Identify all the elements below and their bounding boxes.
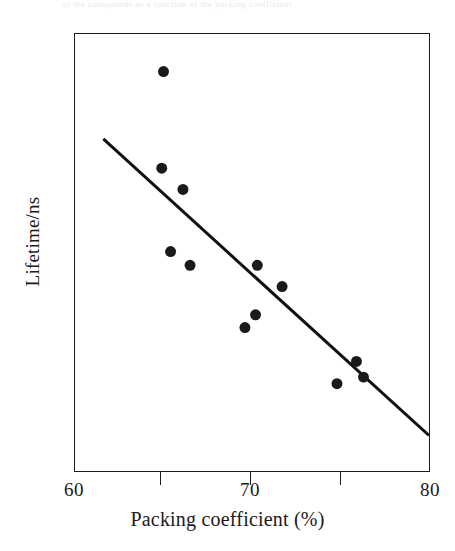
x-tick-label-70: 70 xyxy=(220,480,280,499)
data-point xyxy=(239,322,250,333)
x-tick-65 xyxy=(160,472,161,485)
data-point xyxy=(250,309,261,320)
data-point xyxy=(351,356,362,367)
x-tick-label-80: 80 xyxy=(400,480,455,499)
x-tick-label-60: 60 xyxy=(44,480,104,499)
scatter-plot-canvas xyxy=(75,34,429,471)
trend-line-segment xyxy=(103,139,429,435)
data-points-group xyxy=(156,66,369,389)
data-point xyxy=(178,184,189,195)
x-axis-title: Packing coefficient (%) xyxy=(0,508,455,530)
data-point xyxy=(165,246,176,257)
data-point xyxy=(331,378,342,389)
data-point xyxy=(358,372,369,383)
figure-container: of the compounds as a function of the pa… xyxy=(0,0,455,551)
data-point xyxy=(158,66,169,77)
data-point xyxy=(277,281,288,292)
trend-line xyxy=(103,139,429,435)
data-point xyxy=(252,260,263,271)
plot-frame xyxy=(74,33,430,472)
cropped-caption-remnant: of the compounds as a function of the pa… xyxy=(62,0,440,9)
y-axis-title: Lifetime/ns xyxy=(23,147,42,337)
data-point xyxy=(185,260,196,271)
data-point xyxy=(156,163,167,174)
x-tick-75 xyxy=(340,472,341,485)
